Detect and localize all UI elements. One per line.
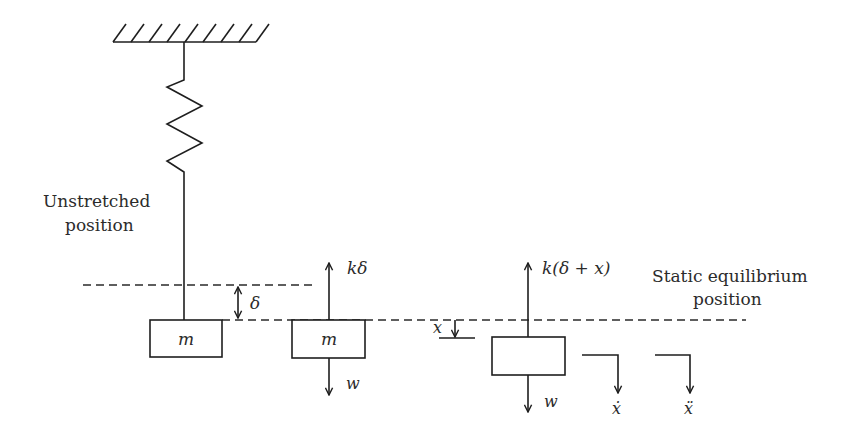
static-equilibrium-label-line1: Static equilibrium <box>652 266 808 286</box>
spring-force-static-label: kδ <box>347 258 368 278</box>
mass-label-2: m <box>321 329 337 349</box>
fixed-support-icon <box>113 24 269 42</box>
static-equilibrium-label-line2: position <box>693 289 762 309</box>
weight-label-2: w <box>346 374 360 393</box>
mass-block-3 <box>492 337 565 375</box>
velocity-label: ẋ <box>612 399 621 418</box>
weight-label-3: w <box>544 392 558 411</box>
acceleration-label: ẍ <box>684 399 693 418</box>
spring-mass-diagram: Unstretched position m δ kδ m w x k(δ + … <box>0 0 844 439</box>
spring-icon <box>167 42 202 320</box>
acceleration-arrow-icon <box>655 355 690 393</box>
unstretched-label-line1: Unstretched <box>43 191 150 211</box>
spring-force-dynamic-label: k(δ + x) <box>542 258 610 278</box>
velocity-arrow-icon <box>582 355 618 393</box>
mass-label-1: m <box>178 329 194 349</box>
displacement-label: x <box>433 318 442 337</box>
unstretched-label-line2: position <box>65 215 134 235</box>
delta-label: δ <box>250 293 260 313</box>
